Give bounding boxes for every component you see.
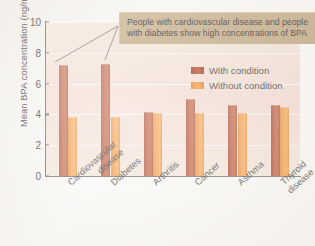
y-tick-mark (45, 21, 49, 22)
y-tick-label: 8 (16, 47, 41, 58)
legend-swatch-with-condition (191, 67, 204, 75)
y-tick-mark (45, 114, 49, 115)
y-tick-mark (45, 145, 49, 146)
legend-item-with-condition: With condition (191, 63, 283, 78)
y-tick-mark (45, 52, 49, 53)
annotation-text: People with cardiovascular disease and p… (127, 17, 315, 39)
annotation-callout: People with cardiovascular disease and p… (119, 12, 315, 44)
y-tick-mark (45, 175, 49, 176)
y-tick-label: 10 (16, 17, 41, 28)
y-tick-label: 6 (16, 78, 41, 89)
legend-label-without-condition: Without condition (209, 80, 283, 91)
legend-item-without-condition: Without condition (191, 78, 283, 93)
y-tick-label: 4 (16, 109, 41, 120)
chart-legend: With condition Without condition (191, 63, 283, 93)
y-tick-label: 2 (16, 140, 41, 151)
legend-label-with-condition: With condition (209, 65, 269, 76)
y-tick-label: 0 (16, 171, 41, 182)
y-tick-mark (45, 83, 49, 84)
legend-swatch-without-condition (191, 82, 204, 90)
bpa-bar-chart-figure: Mean BPA concentration (ng/ml) 0246810 C… (0, 0, 315, 246)
